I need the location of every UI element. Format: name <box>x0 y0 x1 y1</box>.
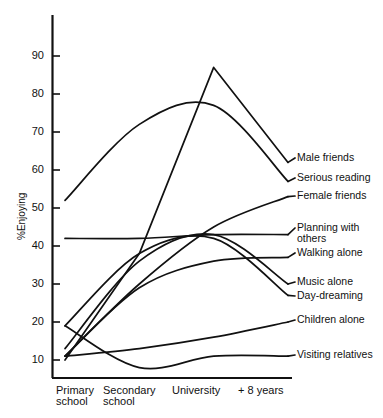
legend-leader-line <box>288 253 295 257</box>
legend-item-label: Music alone <box>297 276 353 287</box>
y-tick-label: 30 <box>18 277 44 289</box>
y-axis-label-wrap: %Enjoying <box>4 170 18 250</box>
legend-leader-lines <box>288 158 295 356</box>
legend-leader-line <box>288 228 295 235</box>
series-line <box>65 197 288 357</box>
series-line <box>65 326 288 369</box>
chart-container: %Enjoying 102030405060708090 Primary sch… <box>0 0 383 418</box>
legend-item-label: Female friends <box>297 190 366 201</box>
legend-item-label: Male friends <box>297 152 354 163</box>
legend-leader-line <box>288 320 295 322</box>
x-axis-category-label: + 8 years <box>238 385 284 396</box>
y-tick-label: 40 <box>18 239 44 251</box>
y-tick-label: 50 <box>18 201 44 213</box>
legend-leader-line <box>288 196 295 197</box>
y-tick-label: 10 <box>18 353 44 365</box>
legend-item-label: Serious reading <box>297 172 371 183</box>
series-line <box>65 234 288 349</box>
legend-leader-line <box>288 295 295 296</box>
y-axis-label: %Enjoying <box>16 193 27 240</box>
legend-leader-line <box>288 355 295 356</box>
axis-lines <box>52 15 292 378</box>
y-tick-label: 90 <box>18 49 44 61</box>
x-axis-category-label: Secondary school <box>103 385 156 407</box>
y-tick-label: 70 <box>18 125 44 137</box>
legend-item-label: Walking alone <box>297 247 363 258</box>
legend-item-label: Visiting relatives <box>297 349 373 360</box>
x-axis-category-label: University <box>172 385 220 396</box>
y-tick-label: 20 <box>18 315 44 327</box>
legend-leader-line <box>288 282 295 284</box>
legend-leader-line <box>288 178 295 181</box>
series-line <box>65 67 288 360</box>
legend-leader-line <box>288 158 295 162</box>
legend-item-label: Planning with others <box>297 222 359 244</box>
legend-item-label: Day-dreaming <box>297 290 363 301</box>
x-axis-category-label: Primary school <box>56 385 94 407</box>
series-lines <box>65 67 288 368</box>
series-line <box>65 322 288 356</box>
y-tick-label: 60 <box>18 163 44 175</box>
y-tick-label: 80 <box>18 87 44 99</box>
series-line <box>65 102 288 200</box>
legend-item-label: Children alone <box>297 314 365 325</box>
